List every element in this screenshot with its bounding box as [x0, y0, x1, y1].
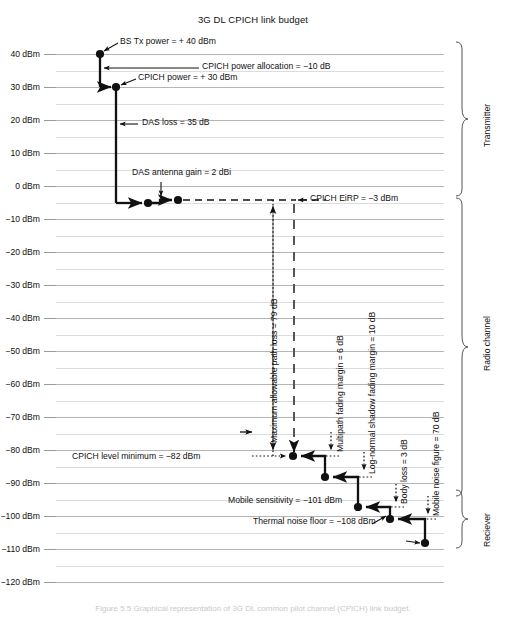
node-cpich-power	[112, 83, 120, 91]
annotation-thermal-noise-floor: Thermal noise floor = −108 dBm	[253, 517, 376, 526]
annotation-multipath-fading-margin: Multipath fading margin = 6 dB	[336, 335, 345, 452]
figure-caption: Figure 5.5 Graphical representation of 3…	[0, 604, 506, 613]
annotation-max-path-loss: Maximum allowable path loss = 79 dB	[270, 299, 279, 444]
annotation-bs-tx-power: BS Tx power = + 40 dBm	[120, 37, 216, 46]
node-after-multipath-margin	[321, 473, 329, 481]
annotation-cpich-level-minimum: CPICH level minimum = −82 dBm	[72, 452, 200, 461]
annotation-lognormal-shadow-margin: Log-normal shadow fading margin = 10 dB	[368, 312, 377, 474]
annotation-das-antenna-gain: DAS antenna gain = 2 dBi	[132, 168, 231, 177]
annotation-body-loss: Body loss = 3 dB	[400, 439, 409, 504]
annotation-das-loss: DAS loss = 35 dB	[142, 118, 210, 127]
node-cpich-level-minimum	[289, 452, 297, 460]
margin-dotted-stubs	[326, 456, 437, 519]
margin-indicator-arrows	[331, 432, 428, 514]
bracket-label-radio-channel: Radio channel	[482, 316, 492, 371]
annotation-mobile-sensitivity: Mobile sensitivity = −101 dBm	[228, 496, 342, 505]
node-thermal-noise-floor	[421, 539, 429, 547]
node-das-output	[144, 199, 152, 207]
bracket-label-reciever: Reciever	[482, 513, 492, 547]
annotation-mobile-noise-figure: Mobile noise figure = 70 dB	[432, 412, 441, 516]
node-mobile-sensitivity	[386, 515, 394, 523]
annotation-cpich-power: CPICH power = + 30 dBm	[138, 73, 237, 82]
section-brackets	[456, 42, 468, 548]
annotation-cpich-power-allocation: CPICH power allocation = −10 dB	[202, 62, 331, 71]
bracket-label-transmitter: Transmitter	[482, 104, 492, 147]
link-budget-figure: 3G DL CPICH link budget 40 dBm30 dBm20 d…	[0, 0, 506, 618]
node-after-shadow-margin	[354, 503, 362, 511]
annotation-cpich-eirp: CPICH EiRP = −3 dBm	[310, 194, 398, 203]
node-cpich-eirp	[174, 196, 182, 204]
node-bs-tx-power	[96, 50, 104, 58]
